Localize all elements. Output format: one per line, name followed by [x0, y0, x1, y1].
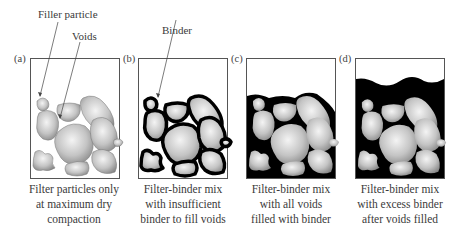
- caption-b: Filter-binder mix with insufficient bind…: [127, 182, 239, 227]
- panel-a: [31, 22, 124, 179]
- label-filler-particle: Filler particle: [38, 8, 98, 20]
- caption-d: Filter-binder mix with excess binder aft…: [344, 182, 456, 227]
- label-voids: Voids: [72, 30, 97, 42]
- panel-d: [356, 59, 447, 179]
- panel-letter-a: (a): [14, 53, 26, 64]
- caption-c: Filter-binder mix with all voids filled …: [235, 182, 347, 227]
- label-binder: Binder: [162, 24, 192, 36]
- panel-c: [247, 59, 340, 179]
- caption-a: Filter particles only at maximum dry com…: [18, 182, 130, 227]
- panel-letter-b: (b): [123, 53, 135, 64]
- panel-letter-c: (c): [231, 53, 243, 64]
- panel-letter-d: (d): [339, 53, 351, 64]
- panel-b: [139, 20, 232, 179]
